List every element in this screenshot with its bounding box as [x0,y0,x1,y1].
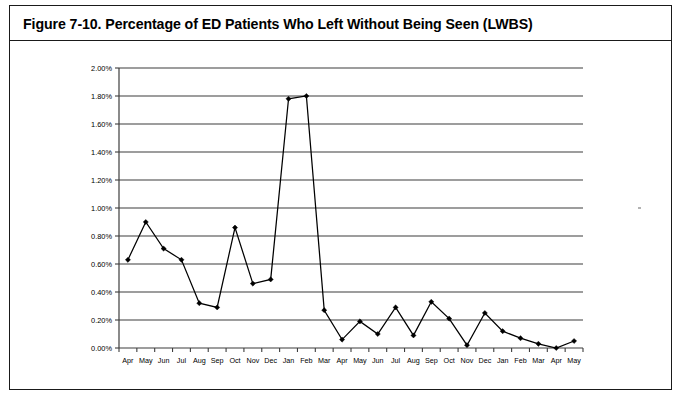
x-axis-tick-label: Nov [461,356,474,365]
y-axis-tick-label: 0.60% [91,260,112,269]
x-axis-tick-label: Oct [229,356,240,365]
x-axis-tick-label: Jan [497,356,509,365]
x-axis-tick-label: Apr [122,356,134,365]
y-axis-tick-label: 1.40% [91,148,112,157]
axis-ticks [115,68,583,352]
y-axis-tick-label: 1.60% [91,120,112,129]
x-axis-tick-label: Nov [246,356,259,365]
x-axis-tick-label: Aug [193,356,206,365]
data-series-path [128,96,574,348]
data-point-marker [536,341,541,346]
x-axis-tick-label: Jul [177,356,187,365]
data-point-marker [125,257,130,262]
y-axis-tick-label: 0.20% [91,316,112,325]
x-axis-tick-label: Sep [425,356,438,365]
x-axis-tick-label: May [139,356,153,365]
x-axis-tick-label: May [353,356,367,365]
data-point-marker [286,96,291,101]
figure-panel: Figure 7-10. Percentage of ED Patients W… [9,5,672,390]
x-axis-tick-label: Dec [264,356,277,365]
x-axis-tick-label: Apr [336,356,348,365]
y-axis-labels: 0.00%0.20%0.40%0.60%0.80%1.00%1.20%1.40%… [91,64,112,353]
x-axis-tick-label: Mar [318,356,331,365]
series-markers-lwbs [125,93,576,350]
x-axis-tick-label: Feb [300,356,312,365]
x-axis-tick-label: Jul [391,356,401,365]
data-point-marker [250,281,255,286]
data-point-marker [268,277,273,282]
y-axis-tick-label: 2.00% [91,64,112,73]
data-point-marker [215,305,220,310]
x-axis-tick-label: Jan [283,356,295,365]
lwbs-line-chart: 0.00%0.20%0.40%0.60%0.80%1.00%1.20%1.40%… [10,40,671,389]
y-axis-tick-label: 1.20% [91,176,112,185]
x-axis-tick-label: Dec [478,356,491,365]
x-axis-tick-label: Feb [514,356,526,365]
x-axis-tick-label: Sep [211,356,224,365]
x-axis-tick-label: Aug [407,356,420,365]
x-axis-labels: AprMayJunJulAugSepOctNovDecJanFebMarAprM… [122,356,581,365]
y-axis-tick-label: 0.00% [91,344,112,353]
x-axis-tick-label: May [567,356,581,365]
series-line-lwbs [128,96,574,348]
x-axis-tick-label: Jun [158,356,170,365]
data-point-marker [304,93,309,98]
x-axis-tick-label: Apr [551,356,563,365]
x-axis-tick-label: Jun [372,356,384,365]
gridlines [119,68,583,348]
data-point-marker [197,301,202,306]
data-point-marker [232,225,237,230]
x-axis-tick-label: Oct [444,356,455,365]
x-axis-tick-label: Mar [532,356,545,365]
page-speck [638,207,641,209]
data-point-marker [554,345,559,350]
y-axis-tick-label: 1.00% [91,204,112,213]
page-title: Figure 7-10. Percentage of ED Patients W… [23,16,533,32]
data-point-marker [571,338,576,343]
y-axis-tick-label: 1.80% [91,92,112,101]
data-point-marker [518,336,523,341]
chart-plot-area: 0.00%0.20%0.40%0.60%0.80%1.00%1.20%1.40%… [10,40,671,389]
y-axis-tick-label: 0.40% [91,288,112,297]
y-axis-tick-label: 0.80% [91,232,112,241]
